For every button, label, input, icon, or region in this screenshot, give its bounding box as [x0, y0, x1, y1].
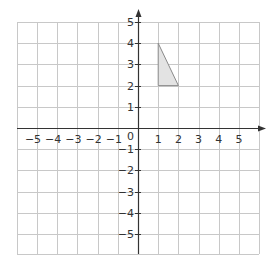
x-tick-label: −4 — [45, 133, 61, 146]
y-axis-arrow-icon — [136, 9, 142, 17]
x-tick-label: 3 — [195, 133, 202, 146]
origin-label: 0 — [127, 130, 134, 143]
x-tick-label: 1 — [155, 133, 162, 146]
y-tick-label: −3 — [118, 186, 134, 199]
y-tick-label: −5 — [118, 228, 134, 241]
y-tick-label: −2 — [118, 164, 134, 177]
x-tick-label: −2 — [85, 133, 101, 146]
y-tick-label: 5 — [127, 16, 134, 29]
x-axis-arrow-icon — [258, 126, 266, 132]
x-tick-label: 4 — [215, 133, 222, 146]
y-tick-label: 2 — [127, 80, 134, 93]
y-tick-label: −4 — [118, 207, 134, 220]
axes — [17, 9, 266, 254]
y-tick-label: 1 — [127, 101, 134, 114]
y-tick-label: 4 — [127, 37, 134, 50]
x-tick-label: −5 — [25, 133, 41, 146]
coordinate-plane: −5−4−3−2−11234554321−1−2−3−4−50 — [0, 0, 271, 267]
x-tick-label: −3 — [65, 133, 81, 146]
x-tick-label: 2 — [175, 133, 182, 146]
y-tick-label: 3 — [127, 58, 134, 71]
x-tick-label: 5 — [236, 133, 243, 146]
y-tick-label: −1 — [118, 143, 134, 156]
